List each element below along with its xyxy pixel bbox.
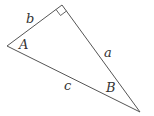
side-label-c: c bbox=[64, 78, 72, 93]
side-label-a: a bbox=[104, 45, 112, 60]
angle-label-A: A bbox=[18, 37, 28, 52]
side-label-b: b bbox=[26, 11, 34, 26]
angle-label-B: B bbox=[105, 80, 116, 95]
right-triangle-diagram: b A a c B bbox=[0, 0, 154, 116]
right-angle-marker bbox=[56, 10, 67, 16]
